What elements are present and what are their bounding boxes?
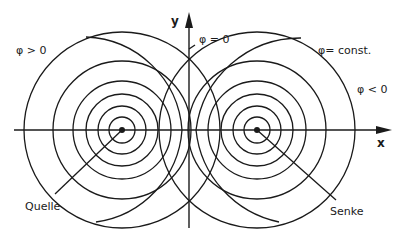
source-leader bbox=[55, 130, 122, 194]
y-axis-arrow-icon bbox=[185, 12, 193, 28]
phi-zero-label: φ = 0 bbox=[199, 33, 229, 46]
x-axis-arrow-icon bbox=[376, 126, 392, 134]
phi-const-label: φ= const. bbox=[318, 44, 371, 57]
x-axis-label: x bbox=[377, 136, 385, 150]
phi-positive-label: φ > 0 bbox=[16, 44, 46, 57]
sink-point bbox=[254, 127, 260, 133]
sink-leader bbox=[257, 130, 336, 200]
source-point bbox=[119, 127, 125, 133]
sink-label: Senke bbox=[330, 205, 363, 218]
phi-negative-label: φ < 0 bbox=[357, 83, 387, 96]
source-label: Quelle bbox=[25, 200, 60, 213]
phi-zero-leader bbox=[189, 45, 195, 49]
y-axis-label: y bbox=[171, 14, 179, 28]
